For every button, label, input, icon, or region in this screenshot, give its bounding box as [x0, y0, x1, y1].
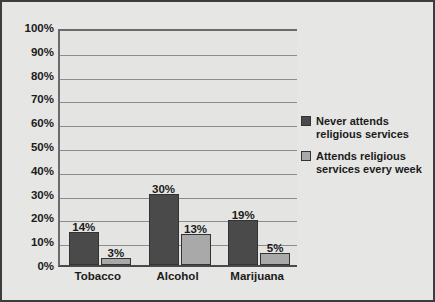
y-axis-tick-label: 90% — [2, 47, 54, 59]
legend-label-line: Attends religious — [316, 150, 422, 163]
legend-item[interactable]: Attends religiousservices every week — [301, 150, 427, 176]
y-axis-tick-label: 40% — [2, 166, 54, 178]
legend-label: Attends religiousservices every week — [316, 150, 422, 176]
chart-legend: Never attendsreligious servicesAttends r… — [301, 115, 427, 185]
y-axis-tick-label: 80% — [2, 71, 54, 83]
x-axis-tick-label: Tobacco — [75, 271, 121, 283]
gridline — [60, 174, 297, 175]
bar-value-label: 14% — [63, 222, 105, 234]
legend-item[interactable]: Never attendsreligious services — [301, 115, 427, 141]
gridline — [60, 102, 297, 103]
y-axis-tick-label: 0% — [2, 261, 54, 273]
x-axis: TobaccoAlcoholMarijuana — [58, 269, 297, 287]
legend-label-line: services every week — [316, 163, 422, 176]
y-axis-tick-label: 30% — [2, 190, 54, 202]
y-axis-tick-label: 60% — [2, 118, 54, 130]
bar-value-label: 13% — [175, 224, 217, 236]
x-axis-tick-label: Alcohol — [156, 271, 198, 283]
y-axis-tick-label: 20% — [2, 214, 54, 226]
legend-label-line: religious services — [316, 128, 409, 141]
legend-color-swatch — [301, 116, 311, 126]
bar — [181, 234, 211, 265]
x-axis-tick-label: Marijuana — [230, 271, 284, 283]
gridline — [60, 198, 297, 199]
gridline — [60, 150, 297, 151]
y-axis-tick-label: 100% — [2, 23, 54, 35]
chart-figure: 100%90%80%70%60%50%40%30%20%10%0% 14%3%3… — [0, 0, 435, 302]
y-axis-tick-label: 10% — [2, 237, 54, 249]
y-axis-tick-label: 50% — [2, 142, 54, 154]
bar-value-label: 3% — [95, 248, 137, 260]
legend-label: Never attendsreligious services — [316, 115, 409, 141]
plot-area: 14%3%30%13%19%5% — [58, 29, 297, 267]
legend-label-line: Never attends — [316, 115, 409, 128]
bar-value-label: 19% — [222, 210, 264, 222]
bar-value-label: 30% — [143, 184, 185, 196]
y-axis-tick-label: 70% — [2, 95, 54, 107]
bar — [260, 253, 290, 265]
bar-value-label: 5% — [254, 243, 296, 255]
gridline — [60, 79, 297, 80]
gridline — [60, 55, 297, 56]
y-axis: 100%90%80%70%60%50%40%30%20%10%0% — [2, 29, 54, 267]
gridline — [60, 126, 297, 127]
legend-color-swatch — [301, 151, 311, 161]
